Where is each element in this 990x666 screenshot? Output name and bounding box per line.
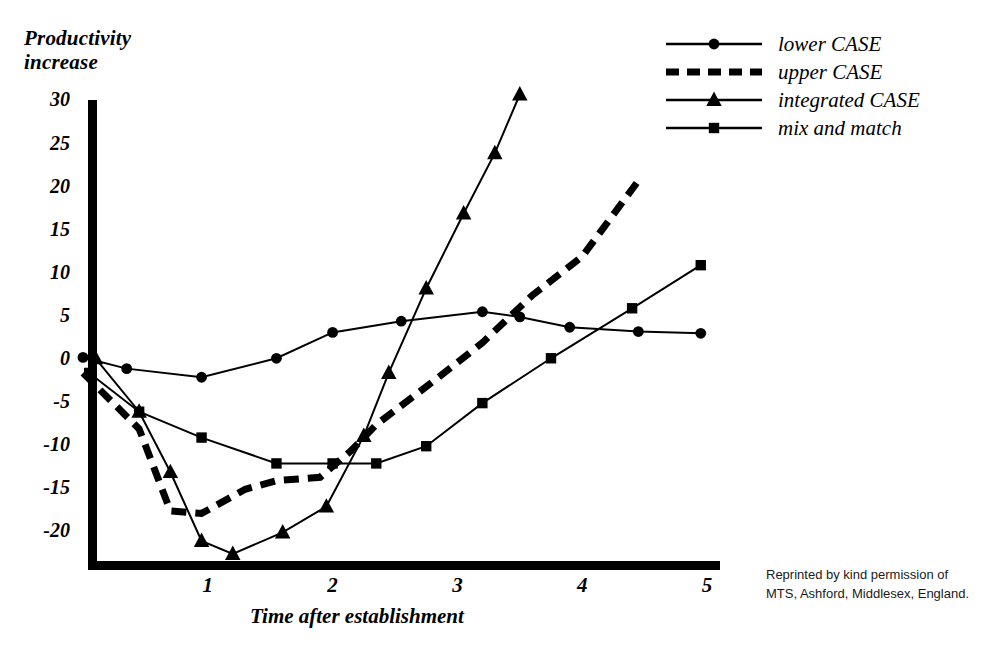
y-tick-label: 20: [18, 175, 70, 198]
data-point-circle: [271, 353, 282, 364]
legend-item-integrated-case[interactable]: integrated CASE: [664, 86, 984, 114]
data-point-square: [709, 123, 719, 133]
data-point-square: [327, 458, 337, 468]
data-point-circle: [121, 363, 132, 374]
data-point-square: [627, 303, 637, 313]
x-axis-line: [88, 561, 720, 570]
legend-swatch: [664, 32, 764, 56]
y-tick-label: -15: [18, 476, 70, 499]
data-point-triangle: [381, 365, 396, 379]
y-tick-label: 15: [18, 218, 70, 241]
legend-swatch: [664, 88, 764, 112]
x-axis-title: Time after establishment: [250, 604, 464, 628]
data-point-circle: [695, 328, 706, 339]
data-point-triangle: [163, 464, 178, 478]
chart-legend: lower CASEupper CASEintegrated CASEmix a…: [664, 30, 984, 142]
data-point-circle: [477, 306, 488, 317]
data-point-circle: [633, 326, 644, 337]
legend-item-lower-case[interactable]: lower CASE: [664, 30, 984, 58]
data-point-triangle: [456, 205, 471, 219]
x-tick-label: 2: [313, 573, 353, 598]
y-tick-label: -20: [18, 519, 70, 542]
reprint-credit: Reprinted by kind permission of MTS, Ash…: [766, 566, 976, 604]
data-point-circle: [396, 316, 407, 327]
data-point-circle: [78, 352, 89, 363]
data-point-square: [371, 458, 381, 468]
data-point-circle: [196, 372, 207, 383]
data-point-square: [696, 260, 706, 270]
x-tick-label: 4: [562, 573, 602, 598]
data-point-square: [271, 458, 281, 468]
legend-item-upper-case[interactable]: upper CASE: [664, 58, 984, 86]
data-point-circle: [709, 39, 720, 50]
series-integrated-case: [88, 86, 528, 560]
x-tick-label: 1: [188, 573, 228, 598]
y-tick-label: 5: [18, 304, 70, 327]
legend-item-mix-and-match[interactable]: mix and match: [664, 114, 984, 142]
data-point-circle: [564, 322, 575, 333]
data-point-triangle: [512, 86, 527, 100]
series-line: [95, 95, 519, 554]
y-tick-label: 25: [18, 132, 70, 155]
y-tick-label: -10: [18, 433, 70, 456]
legend-item-label: mix and match: [764, 116, 902, 141]
data-point-square: [134, 407, 144, 417]
y-axis-line: [88, 100, 97, 570]
data-point-square: [421, 441, 431, 451]
legend-item-label: integrated CASE: [764, 88, 920, 113]
y-axis-title: Productivity increase: [24, 26, 131, 74]
data-point-triangle: [194, 533, 209, 547]
data-point-triangle: [418, 280, 433, 294]
legend-item-label: upper CASE: [764, 60, 882, 85]
series-mix-and-match: [84, 260, 706, 469]
data-point-square: [84, 368, 94, 378]
y-tick-label: -5: [18, 390, 70, 413]
data-point-triangle: [319, 498, 334, 512]
data-point-square: [196, 432, 206, 442]
data-point-circle: [327, 327, 338, 338]
legend-item-label: lower CASE: [764, 32, 881, 57]
data-point-square: [546, 353, 556, 363]
series-line: [89, 265, 701, 463]
legend-swatch: [664, 116, 764, 140]
data-point-triangle: [275, 524, 290, 538]
chart-figure: Productivity increase Time after establi…: [0, 0, 990, 666]
data-point-triangle: [487, 145, 502, 159]
y-tick-label: 0: [18, 347, 70, 370]
data-point-square: [477, 398, 487, 408]
legend-swatch: [664, 60, 764, 84]
y-tick-label: 30: [18, 88, 70, 111]
x-tick-label: 5: [687, 573, 727, 598]
x-tick-label: 3: [437, 573, 477, 598]
data-series-layer: [78, 86, 707, 560]
y-tick-label: 10: [18, 261, 70, 284]
